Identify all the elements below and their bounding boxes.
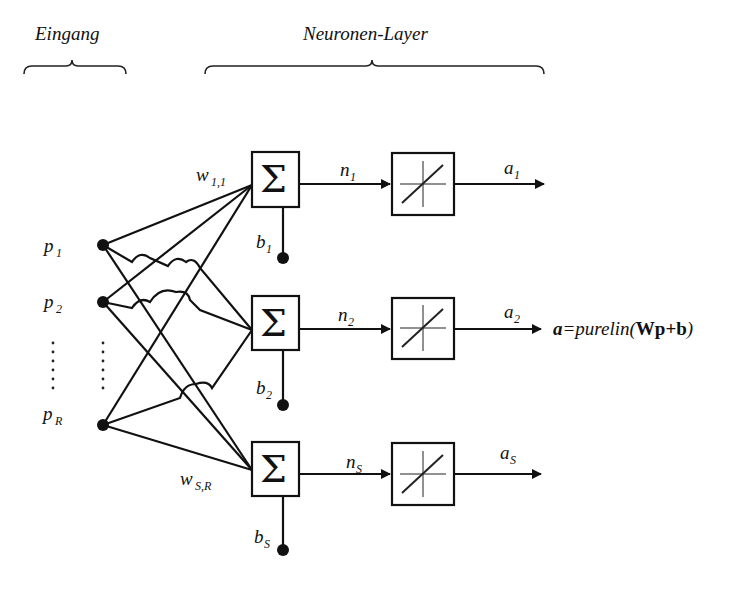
- svg-text:1,1: 1,1: [211, 175, 226, 189]
- svg-text:a: a: [500, 442, 510, 463]
- svg-text:a: a: [504, 301, 514, 322]
- brace-input: [24, 60, 126, 74]
- weight-label-wSR: w S,R: [180, 468, 212, 493]
- svg-text:a: a: [504, 157, 514, 178]
- bias-node-2: [277, 399, 289, 411]
- svg-text:p: p: [42, 291, 54, 312]
- neuron-row-2: Σ b 2 n 2 a 2: [252, 296, 541, 411]
- brace-layer: [205, 60, 544, 74]
- input-node-p2: [97, 296, 109, 308]
- svg-text:2: 2: [348, 315, 354, 329]
- svg-text:2: 2: [56, 302, 62, 316]
- neural-layer-diagram: Eingang Neuronen-Layer p 1 p 2 p R: [0, 0, 748, 592]
- input-label-p1: p 1: [42, 235, 62, 260]
- ellipsis-dots-labels: [52, 342, 55, 390]
- svg-text:w: w: [196, 164, 209, 185]
- svg-text:S: S: [264, 537, 270, 551]
- weight-label-w11: w 1,1: [196, 164, 226, 189]
- svg-text:p: p: [42, 235, 54, 256]
- input-node-p1: [97, 239, 109, 251]
- input-node-pR: [97, 419, 109, 431]
- svg-text:S,R: S,R: [195, 479, 212, 493]
- neuron-row-S: Σ b S n S a S: [252, 442, 541, 556]
- svg-text:b: b: [254, 526, 264, 547]
- output-formula: a=purelin(Wp+b): [553, 318, 693, 340]
- header-input: Eingang: [34, 23, 99, 44]
- svg-text:1: 1: [56, 246, 62, 260]
- bias-node-S: [277, 544, 289, 556]
- weight-connections: [103, 185, 252, 470]
- input-label-p2: p 2: [42, 291, 62, 316]
- sigma-icon: Σ: [260, 301, 287, 345]
- ellipsis-dots-nodes: [102, 342, 105, 390]
- bias-node-1: [277, 252, 289, 264]
- svg-text:w: w: [180, 468, 193, 489]
- svg-text:n: n: [338, 304, 348, 325]
- svg-text:2: 2: [266, 388, 272, 402]
- svg-text:b: b: [256, 231, 266, 252]
- svg-text:R: R: [54, 414, 63, 428]
- svg-text:S: S: [510, 453, 516, 467]
- svg-text:1: 1: [266, 242, 272, 256]
- svg-text:2: 2: [514, 312, 520, 326]
- input-label-pR: p R: [41, 403, 63, 428]
- svg-text:1: 1: [514, 168, 520, 182]
- svg-text:1: 1: [350, 170, 356, 184]
- svg-text:p: p: [41, 403, 53, 424]
- neuron-row-1: Σ b 1 n 1 a 1: [252, 152, 544, 264]
- svg-text:n: n: [340, 159, 350, 180]
- svg-text:S: S: [356, 462, 362, 476]
- sigma-icon: Σ: [260, 447, 287, 491]
- sigma-icon: Σ: [260, 157, 287, 201]
- svg-text:n: n: [346, 451, 356, 472]
- svg-text:b: b: [256, 377, 266, 398]
- header-neuron-layer: Neuronen-Layer: [302, 23, 428, 44]
